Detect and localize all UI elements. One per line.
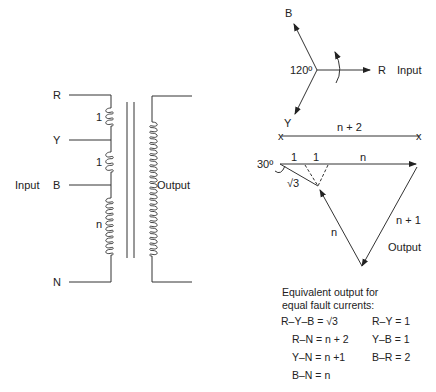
output-phasor-diagram: x x n + 2 30º 1 1 n √3 n n + 1 Output: [257, 121, 422, 266]
phasor-b-label: B: [285, 7, 292, 19]
equivalents-heading-1: Equivalent output for: [282, 286, 378, 299]
angle-120-label: 120º: [290, 64, 312, 76]
ratio-label-1: 1: [96, 111, 102, 123]
right-side-label: n + 1: [396, 214, 421, 226]
input-phasor-diagram: B R Y 120º Input: [284, 7, 421, 129]
equivalents-heading-2: equal fault currents:: [282, 299, 374, 312]
angle-30-arc: [275, 166, 285, 173]
span-right-x-mark: x: [416, 130, 422, 142]
segment-label-1b: 1: [313, 151, 319, 163]
primary-coil-yb: [106, 152, 114, 172]
terminal-n-label: N: [53, 276, 61, 288]
span-left-x-mark: x: [278, 130, 284, 142]
dashed-construction-2: [318, 165, 328, 186]
terminal-y-label: Y: [53, 134, 61, 146]
rotation-arrow-icon: [335, 52, 340, 83]
equiv-r-y: R–Y = 1: [372, 315, 410, 328]
segment-label-1a: 1: [291, 151, 297, 163]
phasor-input-label: Input: [397, 64, 421, 76]
equiv-r-n: R–N = n + 2: [292, 333, 349, 346]
span-n-plus-2-label: n + 2: [337, 121, 362, 133]
segment-label-n: n: [360, 151, 366, 163]
sqrt3-label: √3: [287, 177, 299, 189]
equiv-b-r: B–R = 2: [372, 351, 410, 364]
phasor-output-label: Output: [388, 241, 421, 253]
phasor-y-arrow: [295, 70, 317, 114]
dashed-construction-1: [305, 165, 318, 186]
primary-coil-ry: [106, 108, 114, 126]
coil-turns: [106, 108, 114, 126]
transformer-diagram: R Y B N 1 1 n Input Output: [15, 89, 192, 288]
equiv-b-n: B–N = n: [292, 369, 330, 382]
equiv-r-y-b: R–Y–B = √3: [281, 315, 338, 328]
phasor-r-label: R: [378, 64, 386, 76]
output-left-arrow: [320, 190, 362, 266]
transformer-output-label: Output: [157, 179, 190, 191]
ratio-label-2: 1: [96, 156, 102, 168]
primary-coil-bn: [106, 198, 114, 255]
terminal-r-label: R: [53, 89, 61, 101]
coil-turns: [106, 198, 114, 255]
terminal-b-label: B: [53, 179, 60, 191]
equiv-y-b: Y–B = 1: [372, 333, 410, 346]
phasor-y-label: Y: [284, 117, 292, 129]
left-side-n-label: n: [331, 226, 337, 238]
transformer-input-label: Input: [15, 179, 39, 191]
diagram-canvas: R Y B N 1 1 n Input Output B R Y 120º In…: [0, 0, 436, 392]
equiv-y-n: Y–N = n +1: [292, 351, 345, 364]
angle-30-label: 30º: [257, 158, 273, 170]
coil-turns: [106, 152, 114, 172]
ratio-label-n: n: [96, 218, 102, 230]
